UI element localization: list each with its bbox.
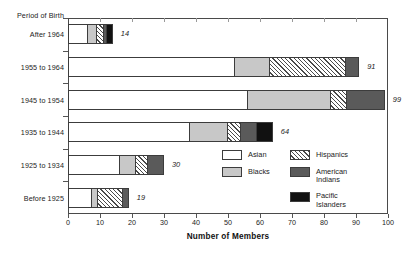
bar-segment-indians[interactable] (147, 156, 163, 174)
bar-value-label: 19 (137, 193, 145, 202)
bar-value-label: 14 (121, 29, 129, 38)
x-tick-label-9: 90 (344, 218, 368, 227)
x-tick-label-7: 70 (280, 218, 304, 227)
x-tick-top (164, 18, 165, 22)
x-tick-label-4: 40 (184, 218, 208, 227)
bar-segment-blacks[interactable] (234, 58, 269, 76)
bar-value-label: 91 (367, 62, 375, 71)
legend-swatch-hispanics (290, 150, 310, 160)
bar-value-label: 64 (281, 127, 289, 136)
bar-segment-hispanics[interactable] (227, 123, 240, 141)
bar-segment-blacks[interactable] (247, 91, 330, 109)
x-tick-top (228, 18, 229, 22)
bar-segment-asian[interactable] (69, 189, 91, 207)
x-tick-label-0: 0 (56, 218, 80, 227)
legend-label-blacks: Blacks (248, 167, 270, 176)
bar-segment-indians[interactable] (240, 123, 256, 141)
y-tick (63, 18, 68, 19)
legend-column-left: AsianBlacks (222, 150, 284, 184)
legend-label-hispanics: Hispanics (316, 150, 348, 159)
y-tick (63, 181, 68, 182)
stacked-bar[interactable] (68, 90, 385, 110)
legend-label-asian: Asian (248, 150, 267, 159)
y-tick (63, 51, 68, 52)
legend-column-right: HispanicsAmericanIndiansPacificIslanders (290, 150, 382, 216)
bar-segment-asian[interactable] (69, 91, 247, 109)
stacked-bar[interactable] (68, 155, 164, 175)
legend-item-blacks[interactable]: Blacks (222, 167, 284, 177)
bar-segment-blacks[interactable] (87, 25, 96, 43)
bar-segment-blacks[interactable] (189, 123, 227, 141)
bar-row: 14 (0, 24, 405, 44)
x-tick-label-10: 100 (376, 218, 400, 227)
x-tick-label-1: 10 (88, 218, 112, 227)
bar-segment-asian[interactable] (69, 156, 119, 174)
bar-segment-hispanics[interactable] (97, 189, 122, 207)
bar-segment-indians[interactable] (346, 91, 384, 109)
x-tick-top (292, 18, 293, 22)
x-tick-top (260, 18, 261, 22)
bar-segment-hispanics[interactable] (330, 91, 346, 109)
bar-value-label: 30 (172, 160, 180, 169)
stacked-bar[interactable] (68, 57, 359, 77)
bar-segment-asian[interactable] (69, 58, 234, 76)
x-tick-top (100, 18, 101, 22)
x-tick-label-2: 20 (120, 218, 144, 227)
bar-segment-indians[interactable] (345, 58, 358, 76)
bar-row: 99 (0, 90, 405, 110)
legend-label-islanders: PacificIslanders (316, 192, 346, 210)
bar-chart: Period of Birth After 19641955 to 196419… (0, 0, 405, 257)
bar-segment-islanders[interactable] (106, 25, 112, 43)
y-tick (63, 116, 68, 117)
legend-swatch-islanders (290, 192, 310, 202)
stacked-bar[interactable] (68, 122, 273, 142)
x-axis-title: Number of Members (68, 232, 388, 241)
bar-segment-hispanics[interactable] (269, 58, 345, 76)
bar-value-label: 99 (393, 95, 401, 104)
bar-row: 64 (0, 122, 405, 142)
bar-segment-asian[interactable] (69, 25, 87, 43)
x-tick-top (132, 18, 133, 22)
bar-segment-indians[interactable] (122, 189, 128, 207)
x-tick-label-3: 30 (152, 218, 176, 227)
bar-row: 91 (0, 57, 405, 77)
y-axis-title: Period of Birth (2, 11, 64, 20)
bar-segment-islanders[interactable] (256, 123, 272, 141)
x-tick-label-8: 80 (312, 218, 336, 227)
y-tick (63, 149, 68, 150)
legend-item-indians[interactable]: AmericanIndians (290, 167, 382, 185)
legend-swatch-asian (222, 150, 242, 160)
bar-segment-blacks[interactable] (119, 156, 135, 174)
x-tick-top (356, 18, 357, 22)
x-tick-top (324, 18, 325, 22)
stacked-bar[interactable] (68, 24, 113, 44)
x-tick-label-5: 50 (216, 218, 240, 227)
x-tick-top (196, 18, 197, 22)
legend-item-islanders[interactable]: PacificIslanders (290, 192, 382, 210)
bar-segment-asian[interactable] (69, 123, 189, 141)
legend-item-hispanics[interactable]: Hispanics (290, 150, 382, 160)
stacked-bar[interactable] (68, 188, 129, 208)
bar-segment-hispanics[interactable] (135, 156, 148, 174)
legend-item-asian[interactable]: Asian (222, 150, 284, 160)
y-tick (63, 83, 68, 84)
legend-swatch-indians (290, 167, 310, 177)
x-tick-label-6: 60 (248, 218, 272, 227)
legend-swatch-blacks (222, 167, 242, 177)
legend-label-indians: AmericanIndians (316, 167, 347, 185)
